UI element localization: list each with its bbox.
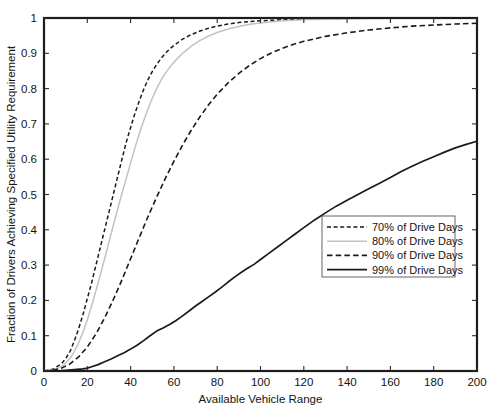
y-tick-label: 0.6 [21, 153, 37, 165]
y-axis-title: Fraction of Drivers Achieving Specified … [5, 45, 17, 343]
x-tick-label: 160 [381, 376, 400, 388]
x-tick-label: 200 [467, 376, 486, 388]
y-tick-label: 0.7 [21, 118, 37, 130]
legend-label-1[interactable]: 70% of Drive Days [372, 221, 464, 233]
y-tick-label: 0.8 [21, 83, 37, 95]
x-tick-label: 140 [338, 376, 357, 388]
x-tick-label: 120 [294, 376, 313, 388]
x-tick-label: 80 [211, 376, 224, 388]
series-line-80-of-drive-days [44, 18, 477, 371]
y-tick-label: 1 [31, 12, 37, 24]
chart-figure: 02040608010012014016018020000.10.20.30.4… [0, 0, 497, 411]
series-line-90-of-drive-days [44, 23, 477, 371]
y-tick-label: 0.3 [21, 259, 37, 271]
legend-label-3[interactable]: 90% of Drive Days [372, 249, 464, 261]
x-tick-label: 180 [424, 376, 443, 388]
y-tick-label: 0.1 [21, 330, 37, 342]
line-chart: 02040608010012014016018020000.10.20.30.4… [0, 0, 497, 411]
x-tick-label: 20 [81, 376, 94, 388]
y-tick-label: 0.9 [21, 47, 37, 59]
y-tick-label: 0.2 [21, 294, 37, 306]
y-tick-label: 0 [31, 365, 37, 377]
x-tick-label: 0 [41, 376, 47, 388]
plot-frame [44, 18, 477, 371]
x-tick-label: 100 [251, 376, 270, 388]
x-tick-label: 40 [124, 376, 137, 388]
y-tick-label: 0.5 [21, 189, 37, 201]
x-axis-title: Available Vehicle Range [199, 393, 323, 405]
series-line-70-of-drive-days [44, 18, 477, 371]
legend-layer[interactable]: 70% of Drive Days80% of Drive Days90% of… [322, 216, 464, 277]
legend-label-2[interactable]: 80% of Drive Days [372, 235, 464, 247]
y-tick-label: 0.4 [21, 224, 38, 236]
x-tick-label: 60 [168, 376, 181, 388]
legend-label-4[interactable]: 99% of Drive Days [372, 264, 464, 276]
series-layer [44, 18, 477, 371]
